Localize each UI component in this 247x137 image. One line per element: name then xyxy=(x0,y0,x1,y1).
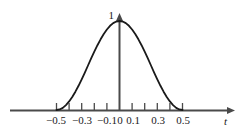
x-tick-label--0.1: −0.1 xyxy=(97,115,117,126)
x-axis-arrowhead xyxy=(227,107,235,114)
x-tick-label--0.5: −0.5 xyxy=(46,115,66,126)
x-tick-label-0.1: 0.1 xyxy=(126,115,140,126)
x-tick-label-0: 0 xyxy=(117,115,123,126)
chart-figure: 1 −0.5 −0.3 −0.1 0 0.1 0.3 0.5 t xyxy=(0,0,247,137)
y-peak-label: 1 xyxy=(100,10,114,21)
x-axis-label-t: t xyxy=(224,116,227,127)
plot-canvas xyxy=(0,0,247,137)
y-axis-arrowhead xyxy=(116,13,123,21)
x-tick-label--0.3: −0.3 xyxy=(72,115,92,126)
x-tick-label-0.3: 0.3 xyxy=(151,115,165,126)
x-tick-label-0.5: 0.5 xyxy=(176,115,190,126)
